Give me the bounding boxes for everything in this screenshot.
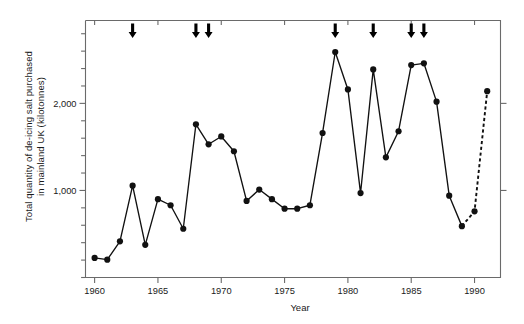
data-point-marker <box>319 130 325 136</box>
data-point-marker <box>345 86 351 92</box>
data-point-marker <box>269 196 275 202</box>
y-tick-label: 1,000 <box>53 186 76 196</box>
data-point-marker <box>370 66 376 72</box>
data-point-marker <box>155 196 161 202</box>
data-point-marker <box>256 186 262 192</box>
data-point-marker <box>142 242 148 248</box>
y-tick-label-group: 1,0002,000 <box>53 99 76 196</box>
x-tick-label: 1960 <box>84 286 105 296</box>
data-point-marker <box>130 183 136 189</box>
data-point-marker <box>332 49 338 55</box>
data-point-marker <box>395 128 401 134</box>
x-tick-label: 1975 <box>274 286 295 296</box>
data-point-marker <box>117 238 123 244</box>
severe-winter-arrow <box>205 24 213 39</box>
plot-area: 1,0002,000 1960196519701975198019851990 <box>0 0 524 324</box>
severe-winter-arrow-group <box>129 24 428 39</box>
severe-winter-arrow <box>192 24 200 39</box>
y-tick-group <box>80 34 507 278</box>
data-point-marker <box>433 99 439 105</box>
severe-winter-arrow <box>369 24 377 39</box>
x-tick-label: 1970 <box>211 286 232 296</box>
data-point-marker <box>218 133 224 139</box>
x-tick-label: 1985 <box>401 286 422 296</box>
severe-winter-arrow <box>129 24 137 39</box>
data-point-marker <box>180 226 186 232</box>
data-point-marker <box>231 148 237 154</box>
x-tick-label: 1965 <box>148 286 169 296</box>
data-point-marker <box>104 257 110 263</box>
data-point-marker <box>357 190 363 196</box>
x-tick-label-group: 1960196519701975198019851990 <box>84 286 485 296</box>
y-tick-label: 2,000 <box>53 99 76 109</box>
data-point-marker <box>446 193 452 199</box>
axes-group <box>86 21 501 278</box>
data-point-marker <box>294 206 300 212</box>
data-point-marker <box>484 88 490 94</box>
data-point-marker <box>307 202 313 208</box>
axis-frame <box>86 21 501 278</box>
data-point-marker <box>205 141 211 147</box>
severe-winter-arrow <box>407 24 415 39</box>
series-marker-group <box>92 49 491 263</box>
severe-winter-arrow <box>420 24 428 39</box>
data-point-marker <box>243 198 249 204</box>
x-tick-label: 1980 <box>338 286 359 296</box>
x-tick-label: 1990 <box>464 286 485 296</box>
data-point-marker <box>383 154 389 160</box>
data-point-marker <box>168 202 174 208</box>
series-line-main <box>95 52 462 260</box>
data-point-marker <box>471 208 477 214</box>
chart-figure: Total quantity of de-icing salt purchase… <box>0 0 524 324</box>
data-point-marker <box>92 255 98 261</box>
series-line-group <box>95 52 488 260</box>
data-point-marker <box>459 223 465 229</box>
data-point-marker <box>421 60 427 66</box>
data-point-marker <box>281 206 287 212</box>
data-point-marker <box>408 62 414 68</box>
x-tick-group <box>95 21 475 284</box>
data-point-marker <box>193 121 199 127</box>
series-line-estimated <box>462 91 487 226</box>
severe-winter-arrow <box>331 24 339 39</box>
